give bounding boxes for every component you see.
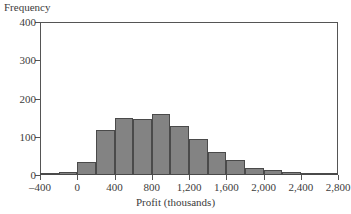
y-axis-tick-label: 100 bbox=[20, 132, 37, 143]
x-axis-tick-mark bbox=[189, 175, 190, 180]
histogram-bar bbox=[319, 173, 338, 175]
x-axis-tick-label: 2,800 bbox=[326, 181, 351, 193]
histogram-bar bbox=[226, 160, 245, 175]
y-axis-tick-label: 0 bbox=[31, 170, 37, 181]
x-axis-tick-mark bbox=[338, 175, 339, 180]
x-axis-tick-mark bbox=[40, 175, 41, 180]
histogram-bars bbox=[40, 22, 338, 175]
y-axis-tick-label: 200 bbox=[20, 94, 37, 105]
histogram-bar bbox=[170, 126, 189, 175]
x-axis-tick-label: 800 bbox=[144, 181, 161, 193]
x-axis-tick-mark bbox=[264, 175, 265, 180]
histogram-bar bbox=[264, 170, 283, 175]
histogram-bar bbox=[152, 114, 171, 175]
y-axis-tick-label: 300 bbox=[20, 55, 37, 66]
x-axis-tick-mark bbox=[301, 175, 302, 180]
x-axis-tick-mark bbox=[115, 175, 116, 180]
y-axis-tick-label: 400 bbox=[20, 17, 37, 28]
x-axis-tick-label: 400 bbox=[106, 181, 123, 193]
x-axis-tick-label: 2,000 bbox=[251, 181, 276, 193]
x-axis-title: Profit (thousands) bbox=[0, 196, 351, 209]
histogram-bar bbox=[115, 118, 134, 175]
histogram-bar bbox=[189, 139, 208, 175]
x-axis-tick-label: 2,400 bbox=[288, 181, 313, 193]
histogram-bar bbox=[245, 168, 264, 175]
histogram-bar bbox=[40, 173, 59, 175]
histogram-figure: Frequency 0100200300400 –40004008001,200… bbox=[0, 0, 351, 214]
histogram-bar bbox=[301, 173, 320, 175]
histogram-bar bbox=[282, 172, 301, 175]
x-axis-tick-label: 1,600 bbox=[214, 181, 239, 193]
histogram-bar bbox=[208, 152, 227, 175]
x-axis-tick-label: 1,200 bbox=[177, 181, 202, 193]
x-axis-tick-label: 0 bbox=[75, 181, 81, 193]
x-axis-tick-label: –400 bbox=[29, 181, 51, 193]
x-axis-tick-mark bbox=[77, 175, 78, 180]
histogram-bar bbox=[96, 130, 115, 175]
x-axis-tick-mark bbox=[152, 175, 153, 180]
histogram-bar bbox=[77, 162, 96, 175]
x-axis-tick-mark bbox=[226, 175, 227, 180]
histogram-bar bbox=[59, 172, 78, 175]
histogram-bar bbox=[133, 119, 152, 175]
y-axis-title: Frequency bbox=[4, 1, 50, 14]
